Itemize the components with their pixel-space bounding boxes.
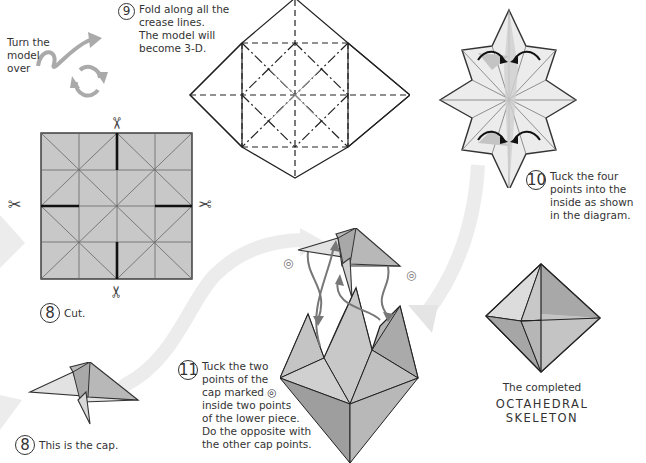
step-11-line-7: the other cap points. xyxy=(202,438,312,451)
step-10-line-4: in the diagram. xyxy=(550,209,633,222)
step-11-line-6: Do the opposite with xyxy=(202,425,312,438)
scissors-bottom-icon: ✂ xyxy=(107,285,126,298)
target-mark-right-icon: ◎ xyxy=(406,268,416,282)
step-11-instruction: 11 Tuck the two points of the cap marked… xyxy=(178,360,312,451)
step-8-cap-instruction: 8 This is the cap. xyxy=(15,435,118,455)
step-11-line-5: of the lower piece. xyxy=(202,412,312,425)
model-name-line-1: OCTAHEDRAL xyxy=(486,397,598,411)
step-9-number: 9 xyxy=(118,3,135,20)
step-10-line-2: points into the xyxy=(550,183,633,196)
star-model-diagram xyxy=(418,8,598,188)
scissors-top-icon: ✂ xyxy=(107,117,126,130)
model-name-line-2: SKELETON xyxy=(486,411,598,425)
step-10-line-1: Tuck the four xyxy=(550,170,633,183)
scissors-right-icon: ✂ xyxy=(198,195,211,214)
turn-over-text: Turn the model over xyxy=(7,36,50,75)
step-11-line-1: Tuck the two xyxy=(202,360,312,373)
step-11-line-4: inside two points xyxy=(202,399,312,412)
step-8-cut-instruction: 8 Cut. xyxy=(40,303,85,323)
octahedron-diagram xyxy=(484,262,602,374)
step-11-number: 11 xyxy=(178,360,198,380)
completed-caption-text: The completed xyxy=(486,381,598,393)
step-10-line-3: inside as shown xyxy=(550,196,633,209)
step-8-cap-number: 8 xyxy=(15,435,35,455)
target-mark-left-icon: ◎ xyxy=(283,256,293,270)
turn-over-line-1: Turn the xyxy=(7,36,50,49)
step-10-number: 10 xyxy=(526,170,546,190)
step-11-line-3: cap marked ◎ xyxy=(202,386,312,399)
step-8-number: 8 xyxy=(40,303,60,323)
step-8-cut-label: Cut. xyxy=(64,307,85,319)
cut-square-diagram xyxy=(40,132,195,282)
turn-over-line-2: model xyxy=(7,49,50,62)
step-11-line-2: points of the xyxy=(202,373,312,386)
crease-pattern-diagram xyxy=(185,0,410,180)
flow-arrow-left-bottom-icon xyxy=(0,395,22,430)
turn-over-line-3: over xyxy=(7,62,50,75)
step-8-cap-label: This is the cap. xyxy=(39,439,118,451)
cap-piece-diagram xyxy=(28,362,143,432)
flow-arrow-left-top-icon xyxy=(0,215,25,268)
completed-caption: The completed OCTAHEDRAL SKELETON xyxy=(486,381,598,425)
step-10-instruction: 10 Tuck the four points into the inside … xyxy=(526,170,633,222)
scissors-left-icon: ✂ xyxy=(8,195,21,214)
